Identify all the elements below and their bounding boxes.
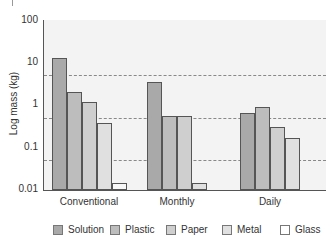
bar-conventional-plastic: [67, 92, 82, 190]
legend-item-plastic: Plastic: [110, 224, 154, 235]
legend-swatch: [110, 225, 120, 235]
y-tick-label: 0.1: [8, 141, 38, 152]
x-category-label: Conventional: [44, 196, 134, 207]
legend-label: Paper: [181, 224, 208, 235]
bar-daily-metal: [285, 138, 300, 190]
bar-daily-solution: [240, 113, 255, 190]
bar-monthly-solution: [147, 82, 162, 190]
y-axis-title: Log mass (kg): [8, 69, 19, 139]
bar-conventional-metal: [97, 123, 112, 190]
bar-conventional-paper: [82, 102, 97, 190]
legend-item-glass: Glass: [280, 224, 321, 235]
bar-daily-paper: [270, 127, 285, 190]
bar-conventional-glass: [112, 183, 127, 190]
legend-swatch: [222, 225, 232, 235]
y-tick-label: 0.01: [8, 183, 38, 194]
bar-monthly-plastic: [162, 116, 177, 190]
legend-item-metal: Metal: [222, 224, 261, 235]
legend-label: Solution: [68, 224, 104, 235]
legend-item-solution: Solution: [53, 224, 104, 235]
gridline: [44, 75, 326, 76]
legend-item-paper: Paper: [166, 224, 208, 235]
legend-label: Metal: [237, 224, 261, 235]
corner-mark: [12, 0, 13, 6]
bar-conventional-solution: [52, 58, 67, 190]
x-axis: [43, 190, 326, 191]
x-category-label: Daily: [225, 196, 315, 207]
bar-monthly-metal: [192, 183, 207, 190]
legend-label: Glass: [295, 224, 321, 235]
y-tick-label: 10: [8, 56, 38, 67]
legend-label: Plastic: [125, 224, 154, 235]
bar-daily-plastic: [255, 107, 270, 190]
bar-monthly-paper: [177, 116, 192, 190]
legend-swatch: [280, 225, 290, 235]
legend-swatch: [53, 225, 63, 235]
y-tick-label: 100: [8, 14, 38, 25]
legend-swatch: [166, 225, 176, 235]
x-category-label: Monthly: [132, 196, 222, 207]
y-axis: [43, 20, 44, 190]
